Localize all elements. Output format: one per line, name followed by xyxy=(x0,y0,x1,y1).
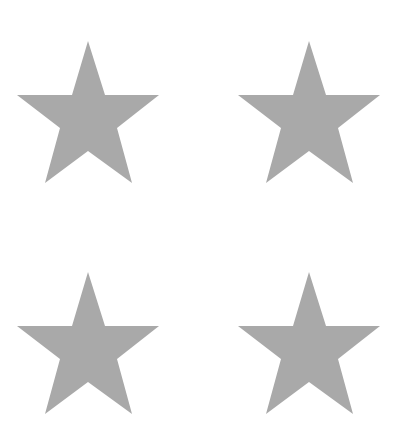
star-icon-bottom-right xyxy=(233,267,383,417)
star-icon xyxy=(12,267,162,417)
star-icon-top-left xyxy=(12,36,162,186)
star-icon xyxy=(233,36,383,186)
star-icon xyxy=(233,267,383,417)
star-icon xyxy=(12,36,162,186)
star-icon-top-right xyxy=(233,36,383,186)
star-icon-bottom-left xyxy=(12,267,162,417)
